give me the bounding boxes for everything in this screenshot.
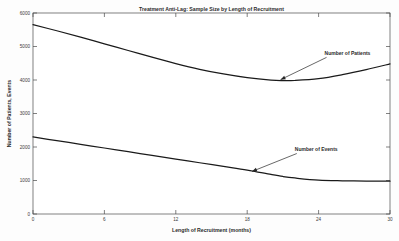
y-tick-label: 0 — [27, 212, 30, 217]
plot-background — [33, 13, 390, 214]
y-tick-label: 1000 — [20, 178, 31, 183]
y-tick-label: 3000 — [20, 111, 31, 116]
y-tick-label: 5000 — [20, 44, 31, 49]
y-tick-label: 4000 — [20, 78, 31, 83]
y-axis-title: Number of Patients, Events — [6, 80, 12, 148]
chart-figure: Treatment Anti-Lag: Sample Size by Lengt… — [0, 0, 399, 241]
chart-svg: Treatment Anti-Lag: Sample Size by Lengt… — [0, 0, 399, 241]
x-axis-title: Length of Recruitment (months) — [172, 227, 251, 233]
y-tick-label: 2000 — [20, 145, 31, 150]
x-tick-label: 0 — [32, 217, 35, 222]
x-tick-label: 6 — [103, 217, 106, 222]
x-tick-label: 18 — [245, 217, 251, 222]
x-tick-labels: 0 6 12 18 24 30 — [32, 217, 393, 222]
chart-title: Treatment Anti-Lag: Sample Size by Lengt… — [139, 6, 284, 12]
annotation-label-patients: Number of Patients — [325, 50, 371, 56]
annotation-label-events: Number of Events — [295, 146, 338, 152]
x-tick-label: 24 — [316, 217, 322, 222]
y-tick-labels: 0 1000 2000 3000 4000 5000 6000 — [20, 11, 31, 217]
y-tick-label: 6000 — [20, 11, 31, 16]
x-tick-label: 30 — [387, 217, 393, 222]
x-tick-label: 12 — [173, 217, 179, 222]
